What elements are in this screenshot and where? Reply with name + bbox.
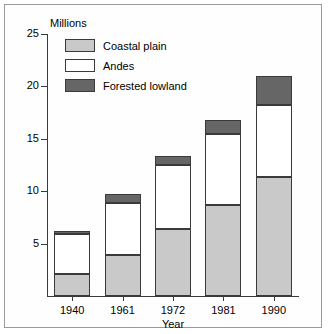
legend-label: Coastal plain xyxy=(103,39,167,53)
bar-segment xyxy=(205,205,241,296)
x-tick-label: 1972 xyxy=(148,304,198,316)
y-tick-label: 25 xyxy=(5,28,39,39)
y-tick-label: 5 xyxy=(5,238,39,249)
bar-segment xyxy=(155,156,191,165)
bar-segment xyxy=(54,231,90,234)
y-axis-unit-label: Millions xyxy=(50,17,87,29)
bar-segment xyxy=(256,76,292,105)
y-tick-label: 10 xyxy=(5,185,39,196)
legend-label: Andes xyxy=(103,59,134,73)
bar-segment xyxy=(205,120,241,134)
bar-1990[interactable] xyxy=(256,76,292,296)
bar-segment xyxy=(155,229,191,296)
bar-1940[interactable] xyxy=(54,231,90,296)
plot-area: Millions 510152025 19401961197219811990 … xyxy=(5,5,321,327)
x-axis-title: Year xyxy=(47,318,299,330)
bar-segment xyxy=(105,203,141,255)
bar-1972[interactable] xyxy=(155,156,191,296)
y-tick-label: 15 xyxy=(5,133,39,144)
bar-segment xyxy=(54,274,90,296)
bar-segment xyxy=(256,105,292,176)
bar-segment xyxy=(256,177,292,296)
bar-1961[interactable] xyxy=(105,194,141,296)
x-tick-mark xyxy=(72,296,73,301)
x-tick-mark xyxy=(123,296,124,301)
bars-layer xyxy=(47,34,299,296)
x-tick-mark xyxy=(173,296,174,301)
legend-swatch-icon xyxy=(65,39,95,52)
bar-segment xyxy=(105,194,141,202)
bar-segment xyxy=(105,255,141,296)
legend-swatch-icon xyxy=(65,59,95,72)
x-tick-label: 1961 xyxy=(98,304,148,316)
bar-segment xyxy=(155,165,191,229)
y-tick-label: 20 xyxy=(5,80,39,91)
x-tick-label: 1990 xyxy=(249,304,299,316)
bar-segment xyxy=(54,234,90,274)
chart-figure: Millions 510152025 19401961197219811990 … xyxy=(4,4,322,328)
x-tick-label: 1981 xyxy=(198,304,248,316)
x-tick-mark xyxy=(274,296,275,301)
x-tick-mark xyxy=(223,296,224,301)
bar-segment xyxy=(205,134,241,205)
legend-label: Forested lowland xyxy=(103,79,187,93)
bar-1981[interactable] xyxy=(205,120,241,296)
x-tick-label: 1940 xyxy=(47,304,97,316)
legend-swatch-icon xyxy=(65,79,95,92)
